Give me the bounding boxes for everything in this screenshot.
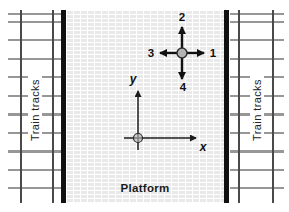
- left-track-rail-inner: [52, 10, 54, 203]
- object-marker-circle: [177, 48, 187, 58]
- platform: 2 4 3 1 y x Platform: [66, 10, 224, 203]
- origin-marker-circle: [134, 134, 143, 143]
- direction-label-right: 1: [210, 47, 217, 59]
- diagram-overlay: 2 4 3 1 y x: [66, 10, 224, 203]
- direction-label-left: 3: [148, 47, 154, 59]
- right-track-label: Train tracks: [250, 73, 264, 147]
- x-axis-label: x: [199, 140, 208, 154]
- right-track-rail-outer: [272, 10, 274, 203]
- platform-label: Platform: [66, 182, 224, 194]
- left-track-rail-outer: [20, 10, 22, 203]
- right-platform-edge: [224, 10, 229, 203]
- left-track-label: Train tracks: [28, 73, 42, 147]
- right-train-track: Train tracks: [230, 10, 284, 203]
- direction-label-bottom: 4: [180, 81, 187, 93]
- left-train-track: Train tracks: [8, 10, 62, 203]
- y-axis-label: y: [129, 72, 138, 86]
- train-platform-diagram: Train tracks 2 4 3: [0, 0, 289, 212]
- direction-label-top: 2: [179, 11, 185, 23]
- right-track-rail-inner: [238, 10, 240, 203]
